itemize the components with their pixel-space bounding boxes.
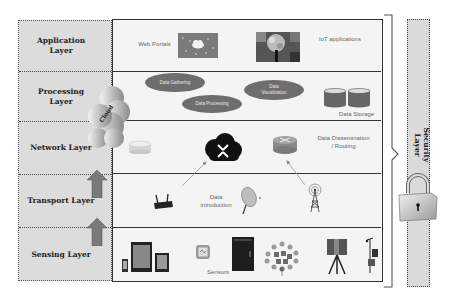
wifi-router-icon <box>152 193 174 211</box>
sensors-label: Sensors <box>203 268 233 276</box>
satellite-dish-icon <box>238 185 264 215</box>
sensor-chip-icon <box>195 244 211 260</box>
iot-devices-cloud-icon <box>262 239 302 277</box>
security-bracket <box>384 14 400 288</box>
padlock-icon <box>396 173 440 223</box>
security-layer-label: Security Layer <box>409 115 431 175</box>
data-introduction-label: Data introduction <box>196 193 236 209</box>
weather-station-icon <box>364 237 380 273</box>
arrow-up-sensing-to-transport-icon <box>87 218 107 246</box>
3d-scanner-tripod-icon <box>325 239 349 275</box>
cell-tower-icon <box>306 183 324 213</box>
mobile-devices-icon <box>122 241 170 273</box>
arrow-up-transport-to-network-icon <box>87 170 107 198</box>
server-rack-icon <box>232 237 254 271</box>
